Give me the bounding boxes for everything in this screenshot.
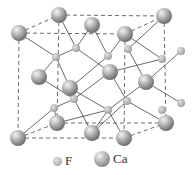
ca-ions [10,7,174,146]
legend-item-ca: Ca [94,151,127,167]
unit-cell-drawing [0,0,195,150]
crystal-structure-diagram: F Ca [0,0,195,175]
legend-label-f: F [65,153,72,169]
legend-item-f: F [53,153,72,169]
ca-ion-icon [94,151,110,167]
legend-label-ca: Ca [113,151,127,167]
f-ion-icon [53,157,62,166]
legend: F Ca [0,151,195,171]
